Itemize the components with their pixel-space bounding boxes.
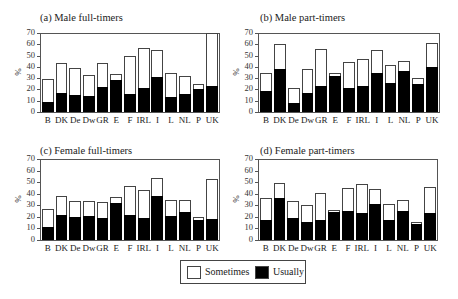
bar-nl — [179, 200, 191, 241]
y-tick-label: 60 — [21, 38, 35, 48]
bar-l — [165, 200, 177, 241]
bar-segment-usually — [412, 84, 424, 112]
y-tick-label: 0 — [239, 234, 253, 244]
y-tick-label: 40 — [239, 188, 253, 198]
bar-dw — [83, 201, 95, 240]
bar-b — [42, 209, 54, 240]
y-tick-label: 70 — [239, 27, 253, 37]
bar-irl — [138, 48, 150, 112]
bar-b — [260, 73, 272, 113]
y-tick-label: 0 — [239, 106, 253, 116]
chart-title: (d) Female part-timers — [260, 145, 354, 156]
bar-p — [193, 217, 205, 240]
bar-b — [260, 198, 272, 240]
bar-segment-usually — [165, 216, 177, 240]
bar-p — [411, 222, 423, 241]
bar-segment-usually — [328, 212, 340, 240]
bar-de — [288, 88, 300, 112]
bar-segment-usually — [342, 211, 354, 240]
bar-e — [110, 197, 122, 240]
bar-dw — [83, 75, 95, 112]
y-tick-label: 30 — [239, 72, 253, 82]
bar-segment-usually — [110, 80, 122, 112]
bar-segment-usually — [315, 220, 327, 240]
bar-segment-usually — [165, 97, 177, 112]
plot-area — [40, 159, 220, 241]
chart-title: (a) Male full-timers — [40, 12, 123, 23]
y-tick-label: 30 — [239, 199, 253, 209]
bar-de — [69, 201, 81, 240]
bar-gr — [315, 193, 327, 240]
bar-uk — [424, 187, 436, 240]
bar-f — [342, 188, 354, 240]
bar-segment-usually — [357, 86, 369, 112]
bar-irl — [357, 59, 369, 112]
plot-area — [40, 33, 220, 113]
y-tick-label: 10 — [239, 222, 253, 232]
bar-dw — [302, 69, 314, 112]
bar-p — [412, 78, 424, 112]
y-tick-label: 20 — [239, 211, 253, 221]
bar-dk — [274, 44, 286, 112]
y-tick-label: 0 — [21, 106, 35, 116]
bar-segment-usually — [179, 212, 191, 240]
bar-nl — [397, 200, 409, 241]
bar-gr — [315, 49, 327, 112]
x-tick-label: UK — [420, 243, 440, 253]
x-tick-label: UK — [202, 243, 222, 253]
bar-segment-usually — [138, 88, 150, 112]
bar-uk — [206, 33, 218, 112]
bar-e — [328, 210, 340, 240]
bar-segment-usually — [301, 222, 313, 241]
bar-b — [42, 79, 54, 112]
bar-segment-usually — [315, 86, 327, 112]
bar-dk — [56, 63, 68, 112]
legend-sometimes-label: Sometimes — [205, 266, 249, 277]
bar-segment-usually — [83, 96, 95, 112]
bar-segment-usually — [151, 77, 163, 112]
bar-segment-usually — [69, 217, 81, 240]
bar-segment-usually — [302, 93, 314, 112]
bar-segment-usually — [383, 220, 395, 240]
bar-dw — [301, 205, 313, 240]
bar-p — [193, 84, 205, 112]
bar-segment-usually — [56, 93, 68, 112]
bar-segment-usually — [206, 219, 218, 240]
bar-segment-usually — [343, 88, 355, 112]
bar-i — [151, 178, 163, 240]
bar-segment-usually — [411, 224, 423, 240]
bar-irl — [356, 184, 368, 240]
y-tick-label: 40 — [21, 188, 35, 198]
bar-segment-usually — [97, 87, 109, 112]
usually-swatch-icon — [255, 266, 269, 279]
bar-dk — [274, 183, 286, 240]
bar-segment-usually — [179, 94, 191, 112]
bar-f — [343, 62, 355, 112]
bar-nl — [179, 76, 191, 112]
y-tick-label: 20 — [239, 83, 253, 93]
bar-segment-usually — [42, 227, 54, 240]
legend: Sometimes Usually — [180, 260, 306, 284]
y-tick-label: 70 — [21, 153, 35, 163]
y-tick-label: 40 — [21, 61, 35, 71]
bar-l — [383, 204, 395, 240]
bar-segment-usually — [426, 67, 438, 112]
sometimes-swatch-icon — [187, 266, 201, 279]
bar-segment-usually — [42, 102, 54, 112]
y-tick-label: 20 — [21, 83, 35, 93]
bar-segment-usually — [260, 220, 272, 240]
bar-segment-usually — [287, 218, 299, 240]
bar-segment-usually — [138, 218, 150, 240]
y-tick-label: 50 — [239, 176, 253, 186]
y-tick-label: 0 — [21, 234, 35, 244]
bar-segment-usually — [83, 216, 95, 240]
y-tick-label: 10 — [21, 95, 35, 105]
bar-l — [385, 65, 397, 112]
bar-e — [329, 73, 341, 113]
bar-segment-usually — [356, 213, 368, 240]
y-tick-label: 60 — [239, 38, 253, 48]
bar-segment-usually — [398, 71, 410, 112]
bar-segment-usually — [260, 91, 272, 112]
bar-segment-usually — [397, 211, 409, 240]
y-tick-label: 50 — [21, 50, 35, 60]
